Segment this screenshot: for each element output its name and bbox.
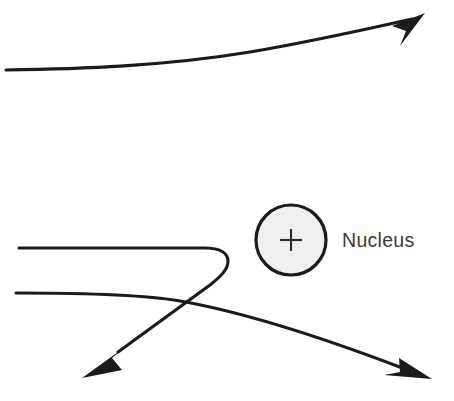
scattering-diagram-canvas: Nucleus xyxy=(0,0,454,401)
trajectory-upper-grazing-path xyxy=(6,13,425,70)
scattering-diagram: Nucleus xyxy=(0,0,454,401)
nucleus-group: Nucleus xyxy=(256,205,415,275)
trajectory-line xyxy=(6,19,412,70)
nucleus-label: Nucleus xyxy=(342,229,415,251)
trajectory-lower-deflected-path xyxy=(16,293,432,379)
trajectory-line xyxy=(16,293,405,369)
trajectory-line xyxy=(19,248,228,352)
arrowhead-icon xyxy=(392,13,425,46)
trajectory-upper-backscatter-path xyxy=(19,248,228,378)
arrowhead-icon xyxy=(384,358,432,379)
